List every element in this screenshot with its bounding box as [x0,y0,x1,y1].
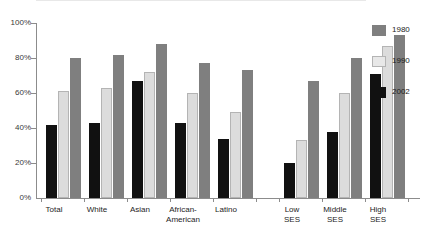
x-tick-5 [256,198,257,202]
y-axis-label-20: 20% [0,159,31,167]
y-axis-label-0: 0% [0,194,31,202]
legend-item-1980: 1980 [372,24,410,36]
legend-swatch-2002-icon [372,87,386,98]
x-tick-4 [213,198,214,202]
bar-low-ses-2002 [284,163,295,198]
legend-item-2002: 2002 [372,86,410,98]
bar-low-ses-1980 [308,81,319,198]
category-label-african-american-line2: American [148,215,218,225]
x-tick-0 [41,198,42,202]
grouped-bar-chart: 100% 80% 60% 40% 20% 0% [0,0,436,240]
bar-middle-ses-1980 [351,58,362,198]
x-tick-2 [127,198,128,202]
bar-middle-ses-1990 [339,93,350,198]
x-tick-6 [279,198,280,202]
legend-label-1990: 1990 [392,57,410,65]
y-axis-label-100: 100% [0,19,31,27]
category-label-high-ses-line1: High [343,205,413,215]
y-axis-line [36,23,37,198]
y-axis-label-40: 40% [0,124,31,132]
bar-latino-2002 [218,139,229,199]
bar-white-2002 [89,123,100,198]
x-axis-line [36,198,420,199]
bar-total-2002 [46,125,57,199]
y-axis-label-80: 80% [0,54,31,62]
x-tick-9 [408,198,409,202]
x-tick-7 [322,198,323,202]
category-label-latino: Latino [191,205,261,215]
category-label-latino-line1: Latino [191,205,261,215]
bar-white-1990 [101,88,112,198]
y-tick-40 [31,128,36,129]
legend-swatch-1980-icon [372,25,386,36]
bar-latino-1980 [242,70,253,198]
x-tick-1 [84,198,85,202]
chart-legend: 1980 1990 2002 [372,24,410,117]
y-axis-label-60: 60% [0,89,31,97]
y-tick-100 [31,23,36,24]
bar-african-american-1980 [199,63,210,198]
bar-latino-1990 [230,112,241,198]
bar-total-1980 [70,58,81,198]
y-tick-60 [31,93,36,94]
bar-white-1980 [113,55,124,199]
x-tick-8 [365,198,366,202]
bar-african-american-2002 [175,123,186,198]
bar-low-ses-1990 [296,140,307,198]
bar-middle-ses-2002 [327,132,338,199]
legend-label-1980: 1980 [392,26,410,34]
bar-asian-1990 [144,72,155,198]
cropped-title-rule [36,0,366,1]
bar-total-1990 [58,91,69,198]
legend-swatch-1990-icon [372,56,386,67]
category-label-high-ses-line2: SES [343,215,413,225]
category-label-high-ses: High SES [343,205,413,225]
x-tick-3 [170,198,171,202]
plot-area [36,23,420,198]
legend-item-1990: 1990 [372,55,410,67]
bar-asian-2002 [132,81,143,198]
legend-label-2002: 2002 [392,88,410,96]
y-tick-80 [31,58,36,59]
y-tick-20 [31,163,36,164]
bar-asian-1980 [156,44,167,198]
bar-african-american-1990 [187,93,198,198]
